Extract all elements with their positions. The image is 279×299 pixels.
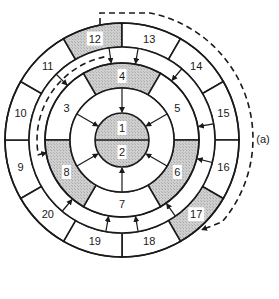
outer-segment-label-20: 20 [42, 208, 54, 220]
middle-segment-label-3: 3 [64, 102, 70, 114]
middle-segment-label-6: 6 [174, 166, 180, 178]
center-label-top: 1 [119, 122, 125, 134]
outer-segment-label-9: 9 [18, 161, 24, 173]
outer-segment-label-15: 15 [217, 107, 229, 119]
outer-segment-label-13: 13 [143, 33, 155, 45]
outer-segment-label-11: 11 [42, 60, 53, 72]
outer-segment-label-10: 10 [14, 107, 26, 119]
outer-segment-label-12: 12 [89, 33, 101, 45]
concentric-ring-diagram: 9101112131415161718192034567812 (a) [0, 0, 279, 299]
outer-segment-label-17: 17 [190, 208, 202, 220]
segments-layer [5, 23, 239, 257]
middle-segment-label-4: 4 [119, 70, 125, 82]
outer-segment-label-14: 14 [190, 60, 202, 72]
outer-segment-label-16: 16 [217, 161, 229, 173]
figure-label: (a) [256, 133, 269, 145]
center-label-bottom: 2 [119, 146, 125, 158]
outer-segment-label-19: 19 [89, 235, 101, 247]
outer-segment-label-18: 18 [143, 235, 155, 247]
middle-segment-label-7: 7 [119, 198, 125, 210]
middle-segment-label-8: 8 [64, 166, 70, 178]
middle-segment-label-5: 5 [174, 102, 180, 114]
